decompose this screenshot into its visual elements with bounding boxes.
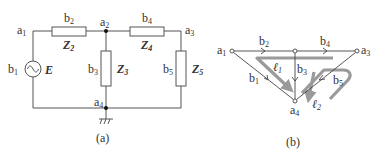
junction-a4: [104, 106, 108, 110]
caption-a: (a): [96, 131, 109, 145]
node-label-a1: a1: [17, 23, 26, 38]
branch-label-b5: b5: [163, 62, 173, 77]
impedance-z3: [101, 51, 111, 86]
edge-label-b5: b5: [333, 73, 343, 88]
node-label-b-a1: a1: [217, 43, 226, 58]
impedance-label-z5: Z5: [191, 62, 203, 77]
node-a1: [230, 49, 234, 53]
loop-label-l1: ℓ1: [273, 60, 282, 75]
branch-label-b3: b3: [88, 62, 98, 77]
edge-label-b2: b2: [259, 34, 269, 49]
edge-label-b4: b4: [320, 34, 330, 49]
node-a2: [293, 49, 297, 53]
source-label-e: E: [44, 63, 53, 77]
branch-label-b4: b4: [142, 11, 152, 26]
node-label-a2: a2: [100, 15, 109, 30]
branch-label-b2: b2: [64, 11, 74, 26]
circuit-figure: a1 a2 a3 a4 b1 b2 b3 b4 b5 Z2 Z3 Z4 Z5 E…: [0, 0, 383, 157]
node-label-b-a4: a4: [290, 103, 299, 118]
branch-label-b1: b1: [8, 62, 18, 77]
impedance-label-z2: Z2: [62, 38, 74, 53]
node-a3: [355, 49, 359, 53]
node-label-b-a3: a3: [361, 43, 370, 58]
impedance-z5: [176, 51, 186, 86]
node-label-a3: a3: [185, 23, 194, 38]
impedance-label-z3: Z3: [116, 62, 128, 77]
edge-label-b3: b3: [297, 62, 307, 77]
edge-label-b1: b1: [249, 71, 259, 86]
impedance-z2: [52, 27, 86, 36]
node-label-a4: a4: [94, 95, 103, 110]
caption-b: (b): [286, 135, 300, 149]
loop-label-l2: ℓ2: [312, 97, 321, 112]
impedance-z4: [130, 27, 164, 36]
ground-icon: [99, 108, 113, 124]
impedance-label-z4: Z4: [140, 38, 152, 53]
